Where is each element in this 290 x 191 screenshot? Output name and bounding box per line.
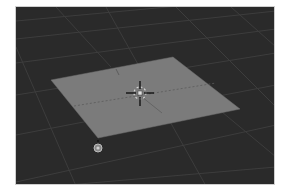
object-origin-icon xyxy=(138,91,142,95)
lamp-icon[interactable] xyxy=(94,140,102,152)
3d-viewport[interactable] xyxy=(15,6,275,185)
viewport-canvas[interactable] xyxy=(16,7,275,185)
plane-mesh[interactable] xyxy=(51,57,240,138)
